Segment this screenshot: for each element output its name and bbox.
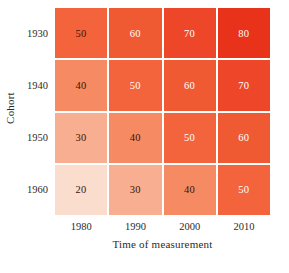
x-tick-label: 2010 — [218, 217, 270, 235]
heatmap-cell[interactable]: 30 — [109, 165, 161, 215]
cell-value: 30 — [130, 184, 141, 195]
heatmap-cell[interactable]: 20 — [55, 165, 107, 215]
cell-value: 50 — [184, 132, 195, 143]
cell-value: 40 — [130, 132, 141, 143]
cell-value: 50 — [238, 184, 249, 195]
heatmap-cell[interactable]: 40 — [55, 60, 107, 110]
heatmap-cell[interactable]: 50 — [109, 60, 161, 110]
y-tick-label: 1940 — [18, 60, 52, 112]
cell-value: 50 — [76, 28, 87, 39]
x-tick-label: 2000 — [164, 217, 216, 235]
cell-value: 60 — [238, 132, 249, 143]
cell-value: 80 — [238, 28, 249, 39]
heatmap-cell[interactable]: 40 — [109, 113, 161, 163]
heatmap-cell[interactable]: 50 — [55, 8, 107, 58]
cell-value: 40 — [184, 184, 195, 195]
y-axis-tick-labels: 1930 1940 1950 1960 — [18, 8, 52, 215]
cell-value: 30 — [76, 132, 87, 143]
cell-value: 70 — [238, 80, 249, 91]
heatmap-cell[interactable]: 70 — [218, 60, 270, 110]
y-axis-title: Cohort — [0, 0, 20, 215]
y-axis-title-label: Cohort — [4, 92, 16, 124]
x-tick-label: 1990 — [109, 217, 161, 235]
cell-value: 60 — [184, 80, 195, 91]
heatmap-cell[interactable]: 50 — [218, 165, 270, 215]
y-tick-label: 1930 — [18, 8, 52, 60]
cell-value: 50 — [130, 80, 141, 91]
heatmap-cell[interactable]: 50 — [164, 113, 216, 163]
cell-value: 40 — [76, 80, 87, 91]
heatmap-cell[interactable]: 60 — [218, 113, 270, 163]
heatmap-cell[interactable]: 40 — [164, 165, 216, 215]
heatmap-figure: Cohort 1930 1940 1950 1960 50 60 70 80 4… — [0, 0, 289, 273]
cell-value: 20 — [76, 184, 87, 195]
heatmap-cell[interactable]: 60 — [164, 60, 216, 110]
heatmap-cell[interactable]: 80 — [218, 8, 270, 58]
heatmap-cell[interactable]: 30 — [55, 113, 107, 163]
cell-value: 70 — [184, 28, 195, 39]
heatmap-cell[interactable]: 60 — [109, 8, 161, 58]
cell-value: 60 — [130, 28, 141, 39]
x-axis-tick-labels: 1980 1990 2000 2010 — [55, 217, 270, 235]
y-tick-label: 1950 — [18, 112, 52, 164]
x-axis-title: Time of measurement — [55, 236, 270, 252]
heatmap-cell[interactable]: 70 — [164, 8, 216, 58]
heatmap-grid: 50 60 70 80 40 50 60 70 30 40 50 — [55, 8, 270, 215]
x-tick-label: 1980 — [55, 217, 107, 235]
y-tick-label: 1960 — [18, 163, 52, 215]
